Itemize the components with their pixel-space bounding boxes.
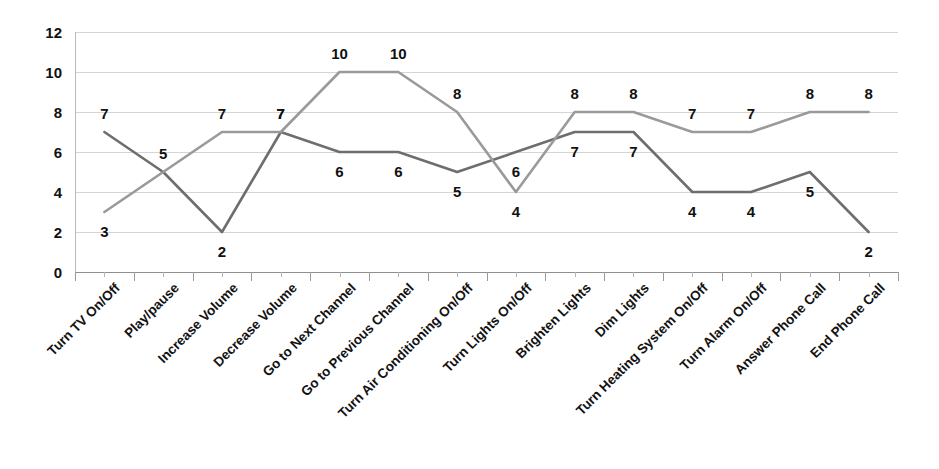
y-tick-12: 12 [45, 25, 62, 40]
y-tick-6: 6 [54, 145, 62, 160]
value-label-s1-10: 4 [688, 204, 696, 219]
value-label-s2-8: 8 [571, 86, 579, 101]
x-tick-minor-13 [869, 272, 870, 277]
y-tick-10: 10 [45, 65, 62, 80]
value-label-s2-9: 8 [629, 86, 637, 101]
value-label-s1-1: 5 [159, 146, 167, 161]
x-tick-minor-9 [633, 272, 634, 277]
x-tick-major-1 [134, 272, 135, 281]
value-label-s1-0: 7 [100, 106, 108, 121]
x-tick-minor-0 [104, 272, 105, 277]
x-axis-category-labels: Turn TV On/OffPlay/pauseIncrease VolumeD… [75, 281, 898, 461]
line-chart: 024681012 75276656774452377101084887788 … [0, 0, 939, 469]
value-label-s2-2: 7 [218, 106, 226, 121]
x-tick-major-6 [428, 272, 429, 281]
value-label-s1-9: 7 [629, 144, 637, 159]
value-label-s2-3: 7 [277, 106, 285, 121]
x-axis-ticks [75, 272, 898, 281]
x-tick-major-12 [780, 272, 781, 281]
x-tick-major-9 [604, 272, 605, 281]
value-label-s2-7: 4 [512, 204, 520, 219]
y-tick-2: 2 [54, 225, 62, 240]
value-label-s1-13: 2 [864, 244, 872, 259]
y-tick-4: 4 [54, 185, 62, 200]
value-label-s2-0: 3 [100, 224, 108, 239]
plot-area: 75276656774452377101084887788 [75, 32, 898, 272]
value-label-s1-12: 5 [806, 184, 814, 199]
value-label-s2-5: 10 [390, 46, 407, 61]
value-label-s1-4: 6 [335, 164, 343, 179]
value-label-s1-2: 2 [218, 244, 226, 259]
x-tick-major-10 [663, 272, 664, 281]
x-tick-minor-4 [340, 272, 341, 277]
category-label-5: Go to Previous Channel [299, 281, 417, 399]
x-tick-major-3 [251, 272, 252, 281]
x-tick-major-2 [193, 272, 194, 281]
value-label-s2-10: 7 [688, 106, 696, 121]
value-label-s2-11: 7 [747, 106, 755, 121]
x-tick-minor-7 [516, 272, 517, 277]
x-tick-minor-3 [281, 272, 282, 277]
y-axis-tick-labels: 024681012 [0, 32, 62, 272]
category-label-0: Turn TV On/Off [46, 281, 124, 359]
series-lines [75, 32, 898, 272]
y-tick-8: 8 [54, 105, 62, 120]
x-tick-major-7 [487, 272, 488, 281]
category-label-9: Dim Lights [593, 281, 652, 340]
x-tick-major-8 [545, 272, 546, 281]
value-label-s1-6: 5 [453, 184, 461, 199]
value-label-s2-13: 8 [864, 86, 872, 101]
x-tick-major-4 [310, 272, 311, 281]
category-label-1: Play/pause [122, 281, 182, 341]
value-label-s1-7: 6 [512, 164, 520, 179]
x-tick-minor-2 [222, 272, 223, 277]
x-tick-minor-12 [810, 272, 811, 277]
x-tick-major-13 [839, 272, 840, 281]
x-tick-minor-11 [751, 272, 752, 277]
y-tick-0: 0 [54, 265, 62, 280]
value-label-s2-6: 8 [453, 86, 461, 101]
x-tick-minor-6 [457, 272, 458, 277]
x-tick-major-14 [898, 272, 899, 281]
x-tick-minor-10 [692, 272, 693, 277]
x-tick-major-11 [722, 272, 723, 281]
x-tick-minor-1 [163, 272, 164, 277]
value-label-s2-12: 8 [806, 86, 814, 101]
x-tick-minor-8 [575, 272, 576, 277]
value-label-s1-5: 6 [394, 164, 402, 179]
value-label-s1-8: 7 [571, 144, 579, 159]
value-label-s2-4: 10 [331, 46, 348, 61]
x-tick-minor-5 [398, 272, 399, 277]
x-tick-major-0 [75, 272, 76, 281]
x-tick-major-5 [369, 272, 370, 281]
value-label-s1-11: 4 [747, 204, 755, 219]
